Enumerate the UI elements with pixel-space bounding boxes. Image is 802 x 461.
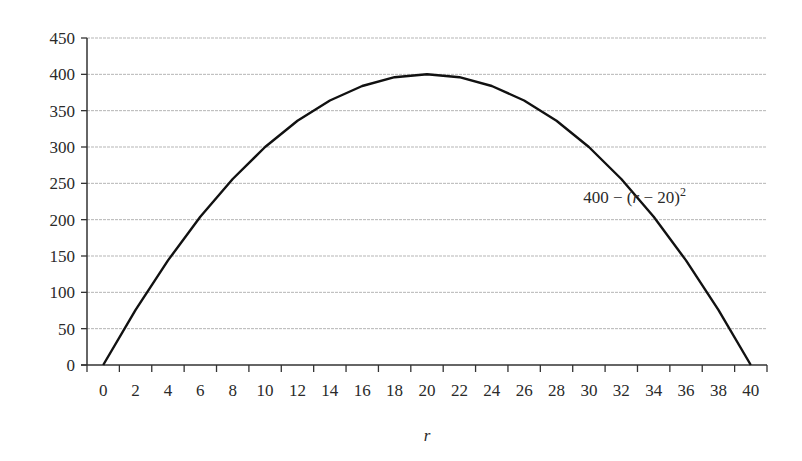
x-tick-label: 24 xyxy=(483,381,501,400)
x-tick-label: 14 xyxy=(321,381,339,400)
x-tick-label: 6 xyxy=(196,381,205,400)
x-tick-label: 10 xyxy=(257,381,274,400)
y-axis: 050100150200250300350400450 xyxy=(50,29,88,375)
x-tick-label: 0 xyxy=(99,381,108,400)
x-tick-label: 4 xyxy=(164,381,173,400)
y-tick-label: 300 xyxy=(50,138,76,157)
x-tick-label: 8 xyxy=(228,381,237,400)
y-tick-label: 150 xyxy=(50,247,76,266)
x-tick-label: 2 xyxy=(131,381,140,400)
y-tick-label: 450 xyxy=(50,29,76,48)
y-tick-label: 200 xyxy=(50,211,76,230)
chart: 050100150200250300350400450 024681012141… xyxy=(0,0,802,461)
y-tick-label: 50 xyxy=(58,320,75,339)
x-tick-label: 26 xyxy=(516,381,533,400)
x-axis-title: r xyxy=(424,426,431,445)
x-tick-label: 36 xyxy=(678,381,695,400)
y-tick-label: 250 xyxy=(50,174,76,193)
x-tick-label: 18 xyxy=(386,381,403,400)
x-tick-label: 16 xyxy=(354,381,371,400)
y-tick-label: 400 xyxy=(50,65,76,84)
y-tick-label: 350 xyxy=(50,102,76,121)
x-tick-label: 30 xyxy=(580,381,597,400)
x-tick-label: 20 xyxy=(419,381,436,400)
x-tick-label: 34 xyxy=(645,381,663,400)
y-tick-label: 100 xyxy=(50,283,76,302)
curve-annotation: 400 − (r − 20)2 xyxy=(583,185,686,207)
x-tick-label: 40 xyxy=(742,381,759,400)
x-tick-label: 12 xyxy=(289,381,306,400)
x-axis: 0246810121416182022242628303234363840 xyxy=(81,365,767,400)
y-tick-label: 0 xyxy=(67,356,76,375)
x-tick-label: 38 xyxy=(710,381,727,400)
x-tick-label: 22 xyxy=(451,381,468,400)
gridlines xyxy=(87,38,767,329)
x-tick-label: 32 xyxy=(613,381,630,400)
x-tick-label: 28 xyxy=(548,381,565,400)
